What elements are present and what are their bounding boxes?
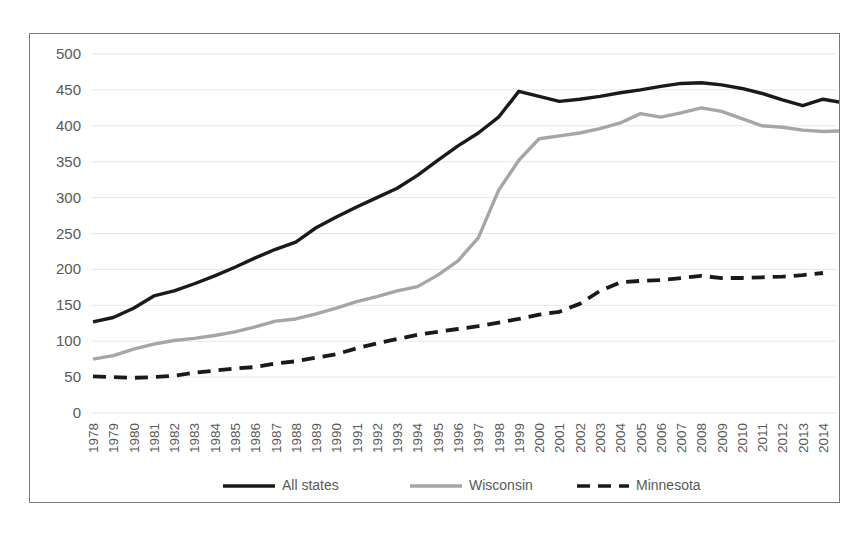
x-tick-label-1986: 1986: [248, 423, 263, 453]
data-series-layer: [93, 83, 839, 378]
y-tick-label-450: 450: [56, 81, 81, 98]
x-tick-label-1982: 1982: [167, 423, 182, 453]
x-tick-label-1985: 1985: [228, 423, 243, 453]
y-tick-label-200: 200: [56, 260, 81, 277]
x-tick-label-1993: 1993: [390, 423, 405, 453]
x-tick-label-2000: 2000: [532, 423, 547, 453]
x-tick-label-2005: 2005: [634, 423, 649, 453]
legend-label-minnesota: Minnesota: [636, 477, 701, 493]
x-tick-label-1981: 1981: [147, 423, 162, 453]
y-tick-label-50: 50: [64, 368, 81, 385]
x-tick-label-1989: 1989: [309, 423, 324, 453]
x-tick-label-1990: 1990: [329, 423, 344, 453]
x-tick-label-2013: 2013: [796, 423, 811, 453]
x-tick-label-1980: 1980: [127, 423, 142, 453]
x-tick-label-2009: 2009: [715, 423, 730, 453]
x-tick-label-2006: 2006: [654, 423, 669, 453]
x-tick-label-1987: 1987: [269, 423, 284, 453]
y-tick-label-0: 0: [73, 404, 81, 421]
x-tick-label-1979: 1979: [106, 423, 121, 453]
x-tick-label-1983: 1983: [187, 423, 202, 453]
x-tick-label-1994: 1994: [410, 423, 425, 454]
x-tick-label-2008: 2008: [694, 423, 709, 453]
x-tick-label-1996: 1996: [451, 423, 466, 453]
x-tick-label-2002: 2002: [573, 423, 588, 453]
x-tick-label-2003: 2003: [593, 423, 608, 453]
x-tick-label-1984: 1984: [208, 423, 223, 454]
x-tick-label-1992: 1992: [370, 423, 385, 453]
y-tick-label-500: 500: [56, 45, 81, 62]
series-line-minnesota: [93, 273, 823, 378]
y-tick-label-350: 350: [56, 153, 81, 170]
x-tick-label-1988: 1988: [289, 423, 304, 453]
legend-label-wisconsin: Wisconsin: [469, 477, 533, 493]
x-tick-label-1978: 1978: [86, 423, 101, 453]
x-tick-label-1995: 1995: [431, 423, 446, 453]
x-tick-label-2012: 2012: [775, 423, 790, 453]
y-tick-label-150: 150: [56, 296, 81, 313]
x-tick-label-2011: 2011: [755, 423, 770, 452]
y-tick-label-250: 250: [56, 225, 81, 242]
line-chart: 050100150200250300350400450500 197819791…: [30, 34, 839, 502]
x-tick-label-2010: 2010: [735, 423, 750, 453]
x-tick-label-1999: 1999: [512, 423, 527, 453]
x-tick-label-2001: 2001: [552, 423, 567, 453]
x-tick-label-2014: 2014: [816, 423, 831, 454]
x-tick-label-2007: 2007: [674, 423, 689, 453]
y-tick-label-100: 100: [56, 332, 81, 349]
series-line-all-states: [93, 83, 839, 322]
grid-layer: [91, 54, 837, 413]
y-tick-label-300: 300: [56, 189, 81, 206]
x-tick-label-1998: 1998: [492, 423, 507, 453]
chart-legend: All statesWisconsinMinnesota: [223, 477, 701, 493]
x-tick-label-1997: 1997: [471, 423, 486, 453]
x-tick-label-1991: 1991: [350, 423, 365, 453]
chart-frame: 050100150200250300350400450500 197819791…: [29, 33, 840, 503]
x-tick-label-2004: 2004: [613, 423, 628, 454]
y-axis-tick-labels: 050100150200250300350400450500: [56, 45, 81, 421]
x-axis-tick-labels: 1978197919801981198219831984198519861987…: [86, 423, 831, 454]
legend-label-all-states: All states: [282, 477, 339, 493]
y-tick-label-400: 400: [56, 117, 81, 134]
